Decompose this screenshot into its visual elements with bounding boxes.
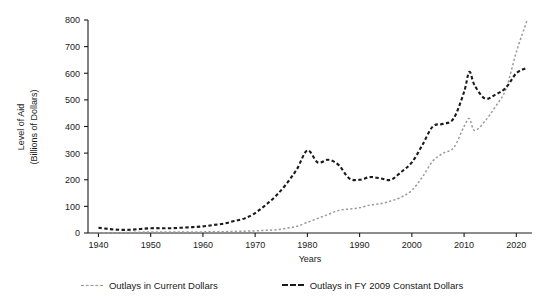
y-tick-label: 600 <box>65 69 80 79</box>
x-tick-label: 2020 <box>506 240 526 250</box>
x-tick-label: 1980 <box>297 240 317 250</box>
legend-swatch-current-dollars <box>81 285 103 286</box>
y-tick-label: 700 <box>65 42 80 52</box>
legend-swatch-constant-dollars <box>282 284 304 286</box>
x-tick-label: 1950 <box>141 240 161 250</box>
y-tick-label: 400 <box>65 122 80 132</box>
x-tick-label: 2000 <box>402 240 422 250</box>
y-axis-ticks: 0100200300400500600700800 <box>65 15 88 238</box>
y-axis-title-line1: Level of Aid <box>16 104 26 151</box>
y-tick-label: 0 <box>75 228 80 238</box>
series-line-constant-dollars <box>98 68 526 230</box>
y-axis-title-line2: (Billions of Dollars) <box>29 89 39 164</box>
chart-legend: Outlays in Current Dollars Outlays in FY… <box>0 275 544 295</box>
y-tick-label: 800 <box>65 15 80 25</box>
x-tick-label: 1960 <box>193 240 213 250</box>
x-tick-label: 2010 <box>454 240 474 250</box>
x-axis-title: Years <box>299 254 322 264</box>
line-chart-plot: 0100200300400500600700800 19401950196019… <box>0 0 544 302</box>
legend-label-current-dollars: Outlays in Current Dollars <box>109 280 218 291</box>
x-tick-label: 1970 <box>245 240 265 250</box>
y-tick-label: 500 <box>65 95 80 105</box>
legend-label-constant-dollars: Outlays in FY 2009 Constant Dollars <box>310 280 463 291</box>
y-tick-label: 100 <box>65 202 80 212</box>
x-tick-label: 1990 <box>350 240 370 250</box>
y-tick-label: 200 <box>65 175 80 185</box>
series-line-current-dollars <box>98 21 526 232</box>
legend-item-current-dollars: Outlays in Current Dollars <box>81 280 218 291</box>
y-tick-label: 300 <box>65 149 80 159</box>
x-tick-label: 1940 <box>88 240 108 250</box>
legend-item-constant-dollars: Outlays in FY 2009 Constant Dollars <box>282 280 463 291</box>
x-axis-ticks: 194019501960197019801990200020102020 <box>88 233 526 250</box>
chart-figure: 0100200300400500600700800 19401950196019… <box>0 0 544 302</box>
